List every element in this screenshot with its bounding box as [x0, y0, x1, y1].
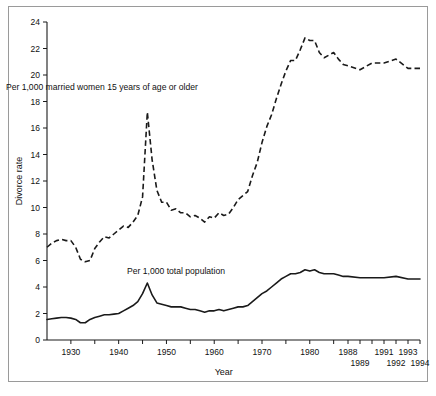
- x-tick-label: 1960: [205, 347, 224, 357]
- y-axis-title: Divorce rate: [14, 157, 24, 206]
- y-tick-label: 0: [35, 335, 40, 345]
- series-line-married-women: [47, 38, 420, 262]
- y-tick-label: 12: [31, 176, 41, 186]
- x-tick-label: 1980: [300, 347, 319, 357]
- y-tick-label: 16: [31, 123, 41, 133]
- y-tick-label: 18: [31, 97, 41, 107]
- x-tick-label: 1992: [387, 358, 406, 368]
- y-tick-label: 6: [35, 256, 40, 266]
- x-axis-title: Year: [215, 367, 233, 377]
- y-tick-label: 24: [31, 17, 41, 27]
- y-tick-label: 4: [35, 282, 40, 292]
- y-tick-label: 8: [35, 229, 40, 239]
- x-tick-label: 1940: [109, 347, 128, 357]
- x-tick-label: 1970: [253, 347, 272, 357]
- divorce-rate-line-chart: 0246810121416182022241930194019501960197…: [0, 0, 436, 396]
- y-tick-label: 2: [35, 309, 40, 319]
- chart-figure: 0246810121416182022241930194019501960197…: [0, 0, 436, 396]
- y-tick-label: 10: [31, 203, 41, 213]
- x-tick-label: 1993: [399, 347, 418, 357]
- married-women-label: Per 1,000 married women 15 years of age …: [6, 82, 198, 92]
- x-tick-label: 1989: [351, 358, 370, 368]
- x-tick-label: 1930: [61, 347, 80, 357]
- series-line-total-population: [47, 270, 420, 323]
- x-tick-label: 1950: [157, 347, 176, 357]
- total-population-label: Per 1,000 total population: [127, 266, 225, 276]
- x-tick-label: 1991: [375, 347, 394, 357]
- y-tick-label: 20: [31, 70, 41, 80]
- y-tick-label: 14: [31, 150, 41, 160]
- y-tick-label: 22: [31, 44, 41, 54]
- x-tick-label: 1994: [411, 358, 430, 368]
- x-tick-label: 1988: [339, 347, 358, 357]
